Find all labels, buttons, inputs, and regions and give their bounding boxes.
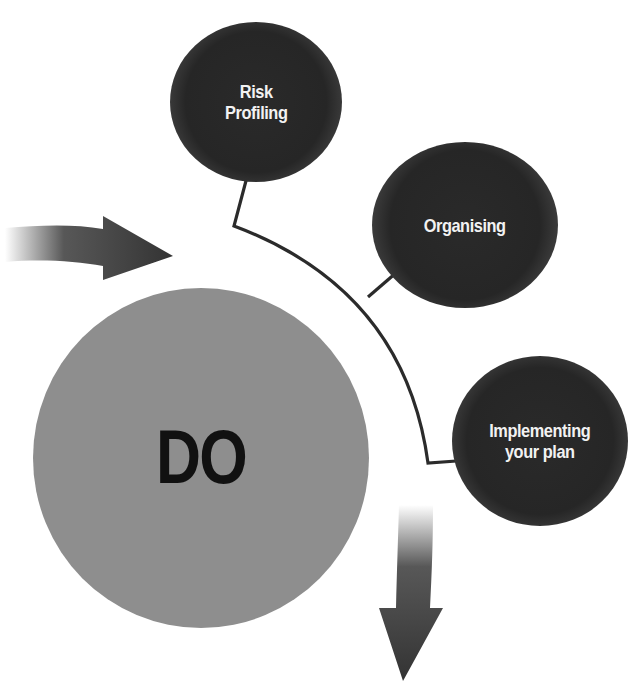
step-label-line2: your plan <box>489 441 590 462</box>
step-label-line1: Organising <box>424 215 506 236</box>
incoming-arrow-icon <box>5 216 173 280</box>
do-label: DO <box>156 413 246 500</box>
outgoing-arrow-icon <box>379 505 443 681</box>
step-label-line2: Profiling <box>225 102 287 123</box>
do-center-circle: DO <box>33 288 369 628</box>
step-organising: Organising <box>372 142 558 308</box>
step-label-line1: Risk <box>225 81 287 102</box>
step-label-line1: Implementing <box>489 420 590 441</box>
step-implementing-your-plan: Implementing your plan <box>452 356 628 526</box>
step-risk-profiling: Risk Profiling <box>170 22 342 182</box>
